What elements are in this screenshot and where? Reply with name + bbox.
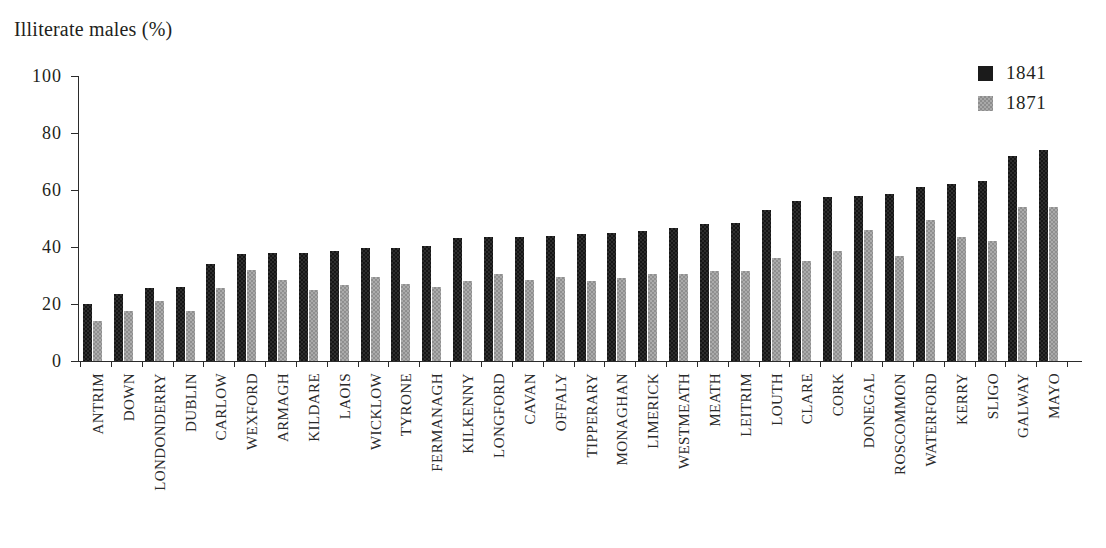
x-axis-tick	[450, 361, 451, 367]
bar-1871	[648, 274, 657, 361]
y-axis-tick: 40	[71, 247, 78, 248]
x-axis-tick	[80, 361, 81, 367]
bar-1871	[309, 290, 318, 361]
bar-group	[947, 76, 975, 361]
bar-1841	[947, 184, 956, 361]
bar-1841	[515, 237, 524, 361]
x-axis-tick	[666, 361, 667, 367]
bar-group	[515, 76, 543, 361]
y-axis-tick: 20	[71, 304, 78, 305]
x-axis-category-label: LIMERICK	[645, 373, 662, 449]
x-axis-category-label: WESTMEATH	[676, 373, 693, 469]
x-axis-tick	[913, 361, 914, 367]
x-axis-category-label: DOWN	[121, 373, 138, 421]
bar-1841	[1039, 150, 1048, 361]
x-axis-category-label: ROSCOMMON	[892, 373, 909, 475]
bar-1841	[114, 294, 123, 361]
bar-group	[700, 76, 728, 361]
bar-1841	[607, 233, 616, 361]
bar-group	[546, 76, 574, 361]
bar-1841	[762, 210, 771, 361]
bar-1841	[299, 253, 308, 361]
x-axis-category-label: TIPPERARY	[584, 373, 601, 457]
bar-group	[762, 76, 790, 361]
x-axis-tick	[543, 361, 544, 367]
x-axis-category-label: CARLOW	[213, 373, 230, 440]
bar-1871	[186, 311, 195, 361]
bar-group	[361, 76, 389, 361]
x-axis-category-label: LONDONDERRY	[152, 373, 169, 491]
x-axis-tick	[820, 361, 821, 367]
bar-1841	[1008, 156, 1017, 361]
x-axis-tick	[265, 361, 266, 367]
bar-group	[422, 76, 450, 361]
bar-1871	[93, 321, 102, 361]
y-axis-tick: 80	[71, 133, 78, 134]
x-axis-category-label: MAYO	[1046, 373, 1063, 419]
x-axis-category-label: TYRONE	[398, 373, 415, 436]
bar-group	[1008, 76, 1036, 361]
bar-1841	[731, 223, 740, 361]
x-axis-category-label: WEXFORD	[244, 373, 261, 450]
bar-group	[1039, 76, 1067, 361]
x-axis-tick	[1036, 361, 1037, 367]
x-axis-tick	[512, 361, 513, 367]
x-axis-category-label: MONAGHAN	[614, 373, 631, 465]
bar-1841	[669, 228, 678, 361]
bar-group	[330, 76, 358, 361]
y-axis-tick-label: 20	[42, 294, 62, 315]
x-axis-category-label: LOUTH	[769, 373, 786, 426]
x-axis-category-label: LEITRIM	[738, 373, 755, 437]
y-axis-tick-label: 80	[42, 123, 62, 144]
x-axis-tick	[604, 361, 605, 367]
bar-1871	[216, 288, 225, 361]
bar-1871	[617, 278, 626, 361]
bar-1841	[854, 196, 863, 361]
x-axis-category-label: KERRY	[954, 373, 971, 425]
bar-group	[237, 76, 265, 361]
x-axis-tick	[975, 361, 976, 367]
bar-1871	[463, 281, 472, 361]
bar-1841	[330, 251, 339, 361]
bar-1841	[484, 237, 493, 361]
x-axis-tick	[1005, 361, 1006, 367]
x-axis-category-label: KILDARE	[306, 373, 323, 442]
x-axis-category-label: OFFALY	[553, 373, 570, 431]
x-axis-category-label: CLARE	[799, 373, 816, 424]
plot-area: 020406080100 ANTRIMDOWNLONDONDERRYDUBLIN…	[78, 76, 1082, 361]
bar-1871	[988, 241, 997, 361]
x-axis-tick	[789, 361, 790, 367]
x-axis-tick	[358, 361, 359, 367]
bar-group	[83, 76, 111, 361]
bar-1871	[556, 277, 565, 361]
bar-1841	[206, 264, 215, 361]
bar-1841	[916, 187, 925, 361]
bar-group	[391, 76, 419, 361]
bar-group	[854, 76, 882, 361]
x-axis-category-label: MEATH	[707, 373, 724, 427]
y-axis-tick-label: 40	[42, 237, 62, 258]
bar-group	[792, 76, 820, 361]
bar-group	[176, 76, 204, 361]
x-axis-tick	[481, 361, 482, 367]
bar-1871	[864, 230, 873, 361]
x-axis-tick	[419, 361, 420, 367]
bar-group	[484, 76, 512, 361]
x-axis-tick	[142, 361, 143, 367]
bar-1871	[895, 256, 904, 361]
bar-1841	[823, 197, 832, 361]
x-axis-tick	[851, 361, 852, 367]
y-axis-line	[78, 76, 79, 361]
bar-group	[206, 76, 234, 361]
bar-1871	[1018, 207, 1027, 361]
bar-group	[607, 76, 635, 361]
y-axis-tick: 60	[71, 190, 78, 191]
x-axis-tick	[635, 361, 636, 367]
y-axis-tick: 0	[71, 361, 78, 362]
x-axis-tick	[111, 361, 112, 367]
bar-1841	[145, 288, 154, 361]
x-axis-tick	[759, 361, 760, 367]
bar-1871	[710, 271, 719, 361]
x-axis-tick	[173, 361, 174, 367]
bar-1841	[638, 231, 647, 361]
